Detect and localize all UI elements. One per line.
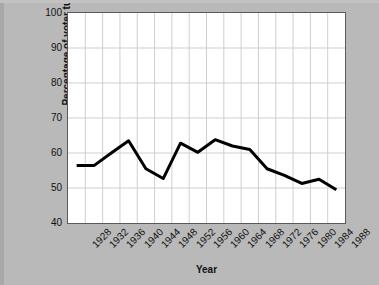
x-tick-label: 1940 (142, 227, 165, 250)
y-tick-label: 50 (34, 183, 62, 193)
plot-area (68, 13, 345, 223)
y-tick-label: 90 (34, 43, 62, 53)
x-tick-label: 1936 (125, 227, 148, 250)
y-tick-label: 100 (34, 8, 62, 18)
y-tick-label: 70 (34, 113, 62, 123)
x-tick-label: 1944 (159, 227, 182, 250)
x-tick-label: 1972 (281, 227, 304, 250)
y-tick-label: 40 (34, 218, 62, 228)
x-tick-label: 1952 (194, 227, 217, 250)
y-tick-label: 60 (34, 148, 62, 158)
x-tick-label: 1988 (350, 227, 373, 250)
x-tick-label: 1968 (263, 227, 286, 250)
x-tick-label: 1928 (90, 227, 113, 250)
chart-card: Percentage of voter turnout 405060708090… (0, 0, 379, 285)
x-tick-label: 1964 (246, 227, 269, 250)
x-tick-label: 1976 (298, 227, 321, 250)
line-chart-svg (68, 13, 345, 223)
x-tick-label: 1984 (333, 227, 356, 250)
x-tick-label: 1960 (229, 227, 252, 250)
x-tick-label: 1932 (107, 227, 130, 250)
x-tick-label: 1948 (177, 227, 200, 250)
x-tick-label: 1980 (315, 227, 338, 250)
x-tick-label: 1956 (211, 227, 234, 250)
chart-screenshot: Percentage of voter turnout 405060708090… (0, 0, 379, 285)
y-tick-label: 80 (34, 78, 62, 88)
x-axis-title: Year (68, 264, 345, 275)
